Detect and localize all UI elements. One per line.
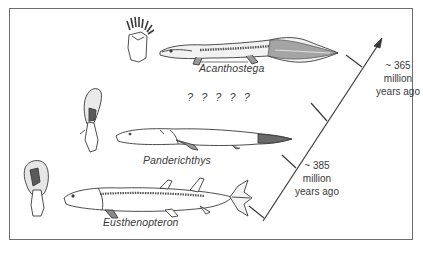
- tick-unknown: [311, 103, 327, 121]
- age-unit: million: [372, 72, 423, 85]
- species-label-eusthenopteron: Eusthenopteron: [103, 216, 179, 228]
- unknown-forms-label: ? ? ? ? ?: [187, 91, 250, 103]
- age-suffix: years ago: [372, 85, 423, 98]
- age-unit: million: [291, 172, 343, 185]
- arrow-head-icon: [374, 38, 382, 48]
- eusthenopteron-illustration: [64, 178, 252, 218]
- age-approx: ~ 385: [291, 159, 343, 172]
- evolution-diagram: [0, 0, 423, 254]
- tick-eusthenopteron: [249, 206, 264, 218]
- species-label-panderichthys: Panderichthys: [143, 154, 211, 166]
- tick-acanthostega: [346, 55, 362, 67]
- acanthostega-illustration: [160, 38, 338, 65]
- eusthenopteron-fin-icon: [24, 161, 48, 216]
- age-label-385: ~ 385 million years ago: [291, 159, 343, 198]
- species-label-acanthostega: Acanthostega: [199, 62, 264, 74]
- age-suffix: years ago: [291, 185, 343, 198]
- panderichthys-illustration: [116, 129, 292, 150]
- age-label-365: ~ 365 million years ago: [372, 59, 423, 98]
- acanthostega-limb-icon: [127, 17, 154, 62]
- panderichthys-fin-icon: [80, 89, 101, 152]
- age-approx: ~ 365: [372, 59, 423, 72]
